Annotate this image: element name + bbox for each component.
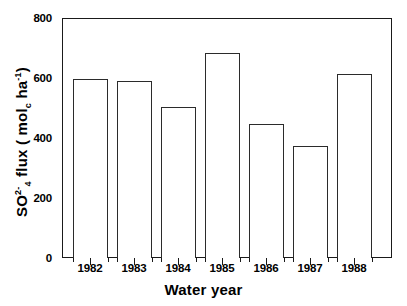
y-axis-title-unit-ha-sup: -1 — [13, 72, 23, 80]
bar-chart-figure: 800 600 400 200 0 1982 1983 1984 — [0, 0, 407, 306]
y-axis-title-paren-open: ( — [13, 140, 30, 145]
x-axis-title: Water year — [0, 281, 407, 298]
clipped-caption-strip — [96, 0, 326, 7]
bar-1982 — [73, 79, 108, 258]
x-tick-label-1985: 1985 — [210, 262, 235, 274]
y-axis-title-unit-ha: ha — [13, 81, 30, 99]
bar-1987 — [293, 146, 328, 258]
x-tick-label-1987: 1987 — [298, 262, 323, 274]
y-axis-title-word: flux — [13, 149, 30, 176]
y-tick-label-400: 400 — [33, 132, 52, 144]
x-tick-label-1982: 1982 — [78, 262, 103, 274]
bar-1988 — [337, 74, 372, 258]
y-axis-title-stoich: 4 — [23, 181, 33, 186]
x-axis-labels: 1982 1983 1984 1985 1986 1987 1988 — [0, 262, 407, 278]
bar-1985 — [205, 53, 240, 259]
y-axis-title-paren-close: ) — [13, 67, 30, 72]
y-tick-label-600: 600 — [33, 72, 52, 84]
y-axis-title: SO2-4 flux ( molc ha-1) — [13, 27, 33, 257]
y-axis-title-unit-mol-sub: c — [23, 103, 33, 108]
x-tick-label-1988: 1988 — [342, 262, 367, 274]
x-tick-label-1983: 1983 — [122, 262, 147, 274]
y-tick-label-800: 800 — [33, 12, 52, 24]
bar-1986 — [249, 124, 284, 258]
x-tick-label-1984: 1984 — [166, 262, 191, 274]
bar-1984 — [161, 107, 196, 258]
y-tick-label-200: 200 — [33, 192, 52, 204]
y-axis-title-charge: 2- — [13, 186, 23, 194]
x-tick-label-1986: 1986 — [254, 262, 279, 274]
y-axis-title-unit-mol: mol — [13, 108, 30, 135]
y-axis-title-species: SO — [13, 195, 30, 217]
bar-1983 — [117, 81, 152, 258]
